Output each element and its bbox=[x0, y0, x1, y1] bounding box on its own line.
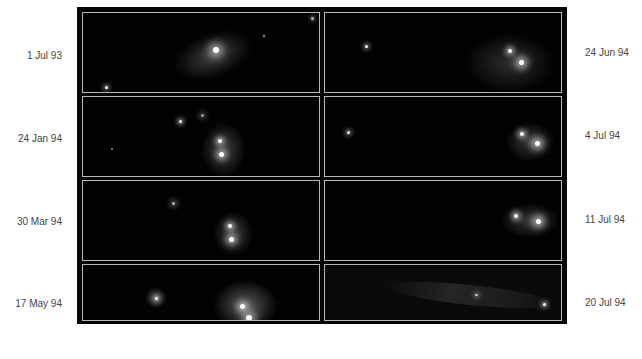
coma-glow bbox=[213, 280, 278, 321]
star-point bbox=[105, 86, 108, 89]
fragment-nucleus bbox=[201, 114, 204, 117]
fragment-nucleus bbox=[246, 315, 252, 321]
date-label: 4 Jul 94 bbox=[585, 130, 620, 141]
coma-glow bbox=[213, 211, 253, 256]
fragment-nucleus bbox=[213, 47, 219, 53]
star-point bbox=[311, 17, 314, 20]
date-label: 1 Jul 93 bbox=[0, 50, 62, 61]
fragment-nucleus bbox=[219, 152, 224, 157]
fragment-nucleus bbox=[179, 120, 182, 123]
fragment-nucleus bbox=[240, 304, 245, 309]
fragment-nucleus bbox=[520, 132, 524, 136]
panel-24-jan-94 bbox=[82, 96, 320, 177]
date-label: 20 Jul 94 bbox=[585, 297, 626, 308]
fragment-train bbox=[384, 276, 555, 314]
coma-glow bbox=[500, 203, 560, 238]
coma-glow bbox=[465, 33, 555, 93]
fragment-nucleus bbox=[514, 214, 518, 218]
star-point bbox=[347, 131, 350, 134]
fragment-nucleus bbox=[155, 297, 158, 300]
date-label: 24 Jun 94 bbox=[585, 47, 629, 58]
star-point bbox=[111, 148, 113, 150]
panel-17-may-94 bbox=[82, 264, 320, 321]
fragment-nucleus bbox=[218, 139, 222, 143]
star-point bbox=[263, 35, 265, 37]
fragment-nucleus bbox=[536, 219, 541, 224]
coma-glow bbox=[201, 122, 246, 177]
panel-30-mar-94 bbox=[82, 180, 320, 261]
date-label: 30 Mar 94 bbox=[0, 216, 62, 227]
fragment-nucleus bbox=[535, 141, 540, 146]
fragment-nucleus bbox=[543, 303, 546, 306]
fragment-nucleus bbox=[172, 202, 175, 205]
fragment-nucleus bbox=[475, 294, 478, 296]
panel-1-jul-93 bbox=[82, 12, 320, 93]
fragment-nucleus bbox=[228, 224, 232, 228]
fragment-nucleus bbox=[508, 49, 512, 53]
date-label: 17 May 94 bbox=[0, 298, 62, 309]
date-label: 11 Jul 94 bbox=[585, 214, 625, 225]
panel-24-jun-94 bbox=[324, 12, 562, 93]
panel-11-jul-94 bbox=[324, 180, 562, 261]
coma-glow bbox=[168, 21, 259, 91]
coma-glow bbox=[505, 122, 555, 162]
star-point bbox=[365, 45, 368, 48]
date-label: 24 Jan 94 bbox=[0, 133, 62, 144]
fragment-nucleus bbox=[519, 60, 524, 65]
fragment-nucleus bbox=[229, 237, 234, 242]
panel-4-jul-94 bbox=[324, 96, 562, 177]
panel-20-jul-94 bbox=[324, 264, 562, 321]
